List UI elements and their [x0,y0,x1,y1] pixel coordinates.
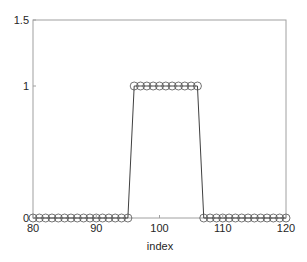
y-tick-label: 1 [23,80,29,92]
x-tick-label: 100 [150,222,168,234]
x-tick-label: 120 [277,222,295,234]
plot-frame [33,20,286,218]
y-tick-label: 1.5 [14,14,29,26]
line-chart: 8090100110120 011.5 index [0,0,307,262]
x-axis-label: index [147,240,174,252]
y-tick-label: 0 [23,212,29,224]
x-tick-label: 110 [214,222,232,234]
plot-area [33,20,286,218]
x-tick-label: 90 [90,222,102,234]
